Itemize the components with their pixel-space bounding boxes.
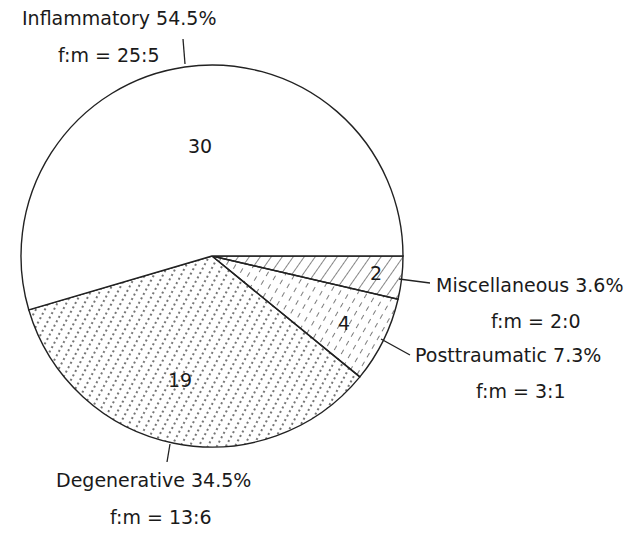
- ratio-posttraumatic: f:m = 3:1: [476, 380, 566, 402]
- leader-line-miscellaneous: [399, 279, 430, 283]
- slice-count-degenerative: 19: [168, 369, 192, 391]
- leader-line-inflammatory: [183, 39, 185, 64]
- pie-chart: 30 19 4 2 Inflammatory 54.5% f:m = 25:5 …: [0, 0, 637, 534]
- label-miscellaneous: Miscellaneous 3.6%: [436, 274, 624, 296]
- leader-line-posttraumatic: [381, 339, 410, 355]
- ratio-miscellaneous: f:m = 2:0: [491, 310, 581, 332]
- slice-count-inflammatory: 30: [188, 135, 212, 157]
- label-inflammatory: Inflammatory 54.5%: [22, 7, 216, 29]
- ratio-degenerative: f:m = 13:6: [110, 506, 212, 528]
- leader-line-degenerative: [167, 444, 170, 462]
- ratio-inflammatory: f:m = 25:5: [58, 44, 160, 66]
- label-degenerative: Degenerative 34.5%: [56, 469, 251, 491]
- slice-count-posttraumatic: 4: [338, 312, 350, 334]
- slice-count-miscellaneous: 2: [370, 262, 382, 284]
- label-posttraumatic: Posttraumatic 7.3%: [415, 344, 601, 366]
